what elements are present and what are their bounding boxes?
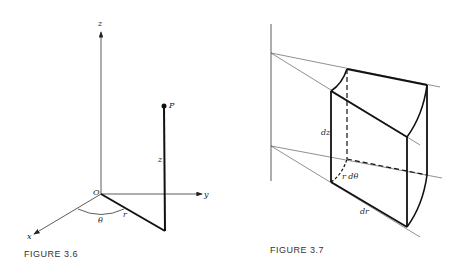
radius-line [101,194,165,231]
figure-caption: FIGURE 3.6 [24,249,78,259]
point-label: P [168,101,175,110]
radius-label: r [123,210,128,219]
edge-top-front [331,91,407,137]
rdtheta-label: r dθ [342,172,358,181]
edge-bottom-back-hidden [347,159,427,175]
theta-arc [78,209,124,215]
dr-label: dr [360,207,370,216]
arc-top-right [407,85,427,137]
figure-3-6: z y x O P z r θ FIGURE 3.6 [24,19,209,259]
figure-3-7: dz r dθ dr FIGURE 3.7 [270,24,442,255]
origin-label: O [93,188,100,197]
figures-canvas: z y x O P z r θ FIGURE 3.6 dz r dθ dr FI… [0,0,465,264]
point-p [162,104,167,109]
height-line [164,106,165,231]
z-axis-label: z [97,19,103,28]
dz-label: dz [321,128,331,137]
angle-label: θ [98,216,103,225]
height-label: z [157,155,163,164]
x-axis [34,194,101,234]
edge-top-back [347,69,427,85]
figure-caption: FIGURE 3.7 [270,245,324,255]
arc-bottom-right [407,175,427,227]
x-axis-label: x [27,232,32,241]
arc-top-left [331,69,347,91]
edge-bottom-front [331,182,407,227]
y-axis-label: y [203,190,209,199]
